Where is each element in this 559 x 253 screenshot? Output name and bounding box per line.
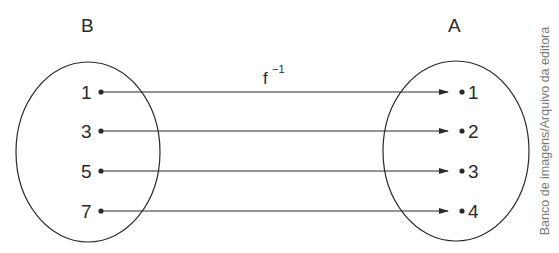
- codomain-elements: 1 2 3 4: [459, 82, 479, 222]
- function-name: f: [263, 69, 268, 88]
- codomain-point: [459, 208, 464, 213]
- codomain-element-label: 1: [468, 82, 479, 103]
- function-superscript: −1: [272, 63, 285, 75]
- image-credit: Banco de imagens/Arquivo da editora: [538, 27, 552, 235]
- set-label-b: B: [81, 15, 94, 36]
- domain-element-label: 7: [81, 201, 92, 222]
- domain-element-label: 1: [81, 82, 92, 103]
- codomain-point: [459, 128, 464, 133]
- domain-element-label: 5: [81, 161, 92, 182]
- diagram-canvas: B A f −1 1 3 5 7: [0, 0, 559, 253]
- domain-element-label: 3: [81, 121, 92, 142]
- function-label: f −1: [263, 63, 285, 88]
- set-label-a: A: [448, 15, 461, 36]
- mapping-arrows: [101, 92, 448, 211]
- set-a-ellipse: [383, 61, 529, 241]
- domain-elements: 1 3 5 7: [81, 82, 104, 222]
- codomain-element-label: 2: [468, 121, 479, 142]
- codomain-point: [459, 168, 464, 173]
- codomain-point: [459, 89, 464, 94]
- codomain-element-label: 4: [468, 201, 479, 222]
- codomain-element-label: 3: [468, 161, 479, 182]
